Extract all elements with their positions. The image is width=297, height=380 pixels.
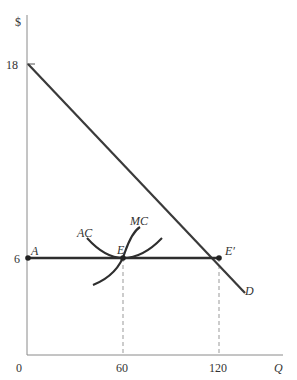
ac-label: AC bbox=[76, 226, 93, 240]
tick-label-18: 18 bbox=[6, 58, 18, 72]
tick-label-120: 120 bbox=[209, 361, 227, 375]
point-a-marker bbox=[25, 255, 31, 261]
x-axis-label: Q bbox=[274, 361, 283, 375]
origin-label: 0 bbox=[16, 361, 22, 375]
tick-label-6: 6 bbox=[14, 252, 20, 266]
point-a-label: A bbox=[30, 244, 39, 258]
point-e-label: E bbox=[116, 243, 125, 257]
point-e-prime-label: E′ bbox=[224, 244, 235, 258]
y-axis-label: $ bbox=[15, 15, 21, 29]
demand-label: D bbox=[244, 284, 254, 298]
point-e-prime-marker bbox=[216, 255, 222, 261]
economics-diagram: $ 18 6 0 60 120 Q A E E′ D AC MC bbox=[0, 0, 297, 380]
tick-label-60: 60 bbox=[116, 361, 128, 375]
mc-label: MC bbox=[129, 214, 149, 228]
